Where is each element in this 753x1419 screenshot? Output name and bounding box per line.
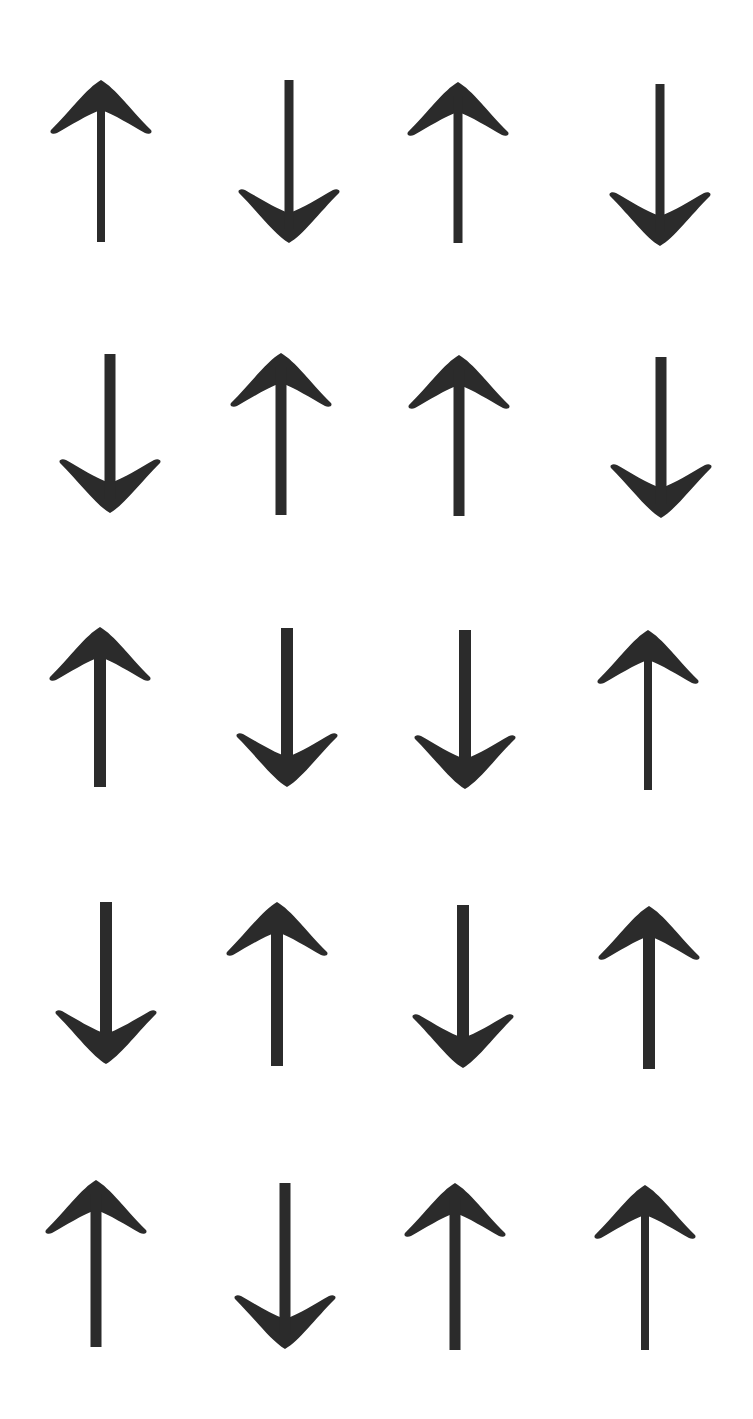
arrow-up-icon — [222, 902, 332, 1066]
arrow-up-icon — [403, 82, 513, 243]
arrow-up-icon — [593, 630, 703, 790]
arrow-down-icon — [606, 357, 716, 518]
arrow-up-icon — [404, 355, 514, 516]
arrow-down-icon — [51, 902, 161, 1064]
arrow-down-icon — [410, 630, 520, 789]
arrow-down-icon — [408, 905, 518, 1068]
arrow-up-icon — [400, 1183, 510, 1350]
arrow-down-icon — [232, 628, 342, 787]
arrow-down-icon — [605, 84, 715, 246]
arrow-down-icon — [55, 354, 165, 513]
arrow-up-icon — [45, 627, 155, 787]
arrow-up-icon — [41, 1180, 151, 1347]
arrow-down-icon — [234, 80, 344, 243]
arrow-down-icon — [230, 1183, 340, 1349]
arrow-up-icon — [226, 353, 336, 515]
arrow-up-icon — [594, 906, 704, 1069]
arrow-up-icon — [590, 1185, 700, 1350]
arrow-up-icon — [46, 80, 156, 242]
